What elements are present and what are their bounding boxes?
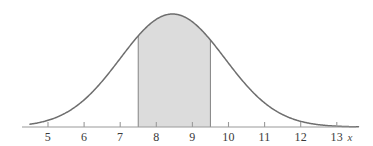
x-axis-tick-label: 9 [189,130,195,144]
x-axis-tick-label: 8 [153,130,159,144]
x-axis-tick-label: 11 [259,130,271,144]
x-axis-variable-label: x [348,131,353,143]
x-axis-tick-label: 7 [117,130,123,144]
x-axis-tick-label: 13 [330,130,343,144]
density-curve-plot [0,0,373,146]
x-axis-tick-label: 10 [222,130,235,144]
normal-distribution-figure: 5678910111213x [0,0,373,146]
x-axis-tick-label: 12 [294,130,307,144]
shaded-area-under-curve [138,14,210,127]
x-axis-tick-marks [48,122,337,127]
x-axis-tick-label: 5 [45,130,51,144]
x-axis-tick-label: 6 [81,130,87,144]
